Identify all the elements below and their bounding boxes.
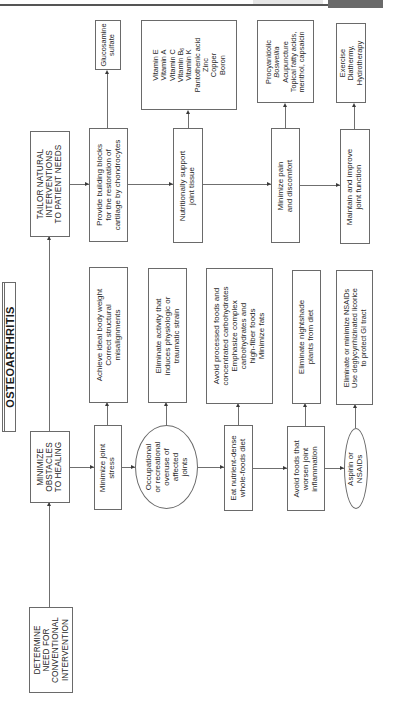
header-page-tab [328,0,383,8]
goal-to-intervention-connector [188,114,189,128]
obstacle-line: NSAIDs [356,452,365,486]
arrow-up [105,70,109,74]
obstacle-line: whole-foods diet [239,435,248,500]
determine-line: CONVENTIONAL [51,617,60,683]
arrow-up [352,103,356,107]
obstacle-line: joints [180,441,189,492]
goal-line: cartilage by chondrocytes [113,140,122,231]
diagram-title: OSTEOARTHRITIS [4,306,16,407]
obstacle-to-action-connector [166,406,167,425]
determine-node: DETERMINE NEED FOR CONVENTIONAL INTERVEN… [29,607,73,693]
tailor-line: TAILOR NATURAL [36,145,45,224]
obstacle-whole-foods-diet: Eat nutrient-dense whole-foods diet [224,425,253,511]
obstacle-overuse-ellipse: Occupational or recreational overuse of … [135,425,198,509]
action-eliminate-nightshade: Eliminate nightshade plants from diet [292,270,321,404]
goal-line: and discomfort [286,159,295,211]
spine-connector-lower [49,503,50,607]
intervention-line: Hydrotherapy [355,41,363,85]
tailor-line: TO PATIENT NEEDS [55,145,64,224]
goal-building-blocks: Provide building blocks for the restorat… [89,128,128,242]
obstacle-line: stress [108,443,117,491]
action-line: high-fiber foods [248,286,257,385]
tailor-chain-connector [127,184,173,185]
obstacle-to-action-connector [355,408,356,428]
action-line: plants from diet [307,300,316,374]
intervention-line: Boron [218,38,226,93]
action-minimize-nsaids: Eliminate or minimize NSAIDs Use deglycy… [336,270,373,405]
intervention-line: sulfate [108,23,116,66]
action-line: traumatic strain [172,296,181,375]
diagram-title-box: OSTEOARTHRITIS [2,282,16,432]
goal-to-intervention-connector [354,107,355,129]
obstacle-to-action-connector [107,406,108,425]
action-line: Minimize fats [257,286,266,385]
intervention-line: menthol, capsaicin [298,31,306,92]
goal-line: joint tissue [188,150,197,221]
determine-line: NEED FOR [42,617,51,683]
action-eliminate-strain: Eliminate activity that induces physiolo… [148,268,187,403]
action-line: carbohydrates and [240,286,249,385]
intervention-line: Boswellia [273,31,281,92]
action-diet-changes: Avoid processed foods and concentrated c… [206,268,273,404]
minimize-line: OBSTACLES [45,442,54,492]
determine-line: DETERMINE [33,617,42,683]
tailor-line: INTERVENTIONS [45,145,54,224]
obstacle-nsaids-ellipse: Aspirin or NSAIDs [344,428,368,509]
action-line: to protect GI tract [359,288,367,388]
tailor-node: TAILOR NATURAL INTERVENTIONS TO PATIENT … [30,131,70,237]
obstacle-to-action-connector [305,407,306,426]
obstacle-joint-stress: Minimize joint stress [94,425,122,510]
tailor-chain-connector [299,185,340,186]
goal-line: joint function [355,148,364,224]
intervention-glucosamine: Glucosamine sulfate [95,20,121,70]
intervention-physical-therapy: Exercise Diathermy, Hydrotherapy [336,23,366,103]
action-line: misalignments [113,289,122,382]
obstacle-inflammatory-foods: Avoid foods that worsen joint inflammati… [287,426,325,511]
minimize-line: MINIMIZE [36,442,45,492]
determine-line: INTERVENTION [60,617,69,683]
header-rule [0,4,328,6]
goal-to-intervention-connector [285,107,286,128]
minimize-obstacles-node: MINIMIZE OBSTACLES TO HEALING [30,431,70,503]
obstacle-to-action-connector [238,407,239,425]
obstacle-line: affected [171,441,180,492]
arrow-up [283,103,287,107]
obstacle-chain-connector [252,468,287,469]
goal-joint-function: Maintain and improve joint function [340,129,370,244]
obstacle-line: inflammation [310,440,319,497]
intervention-vitamins-minerals: Vitamin E Vitamin A Vitamin C Vitamin B6… [141,20,237,110]
minimize-line: TO HEALING [55,442,64,492]
goal-minimize-pain: Minimize pain and discomfort [271,128,300,243]
tailor-chain-connector [203,184,271,185]
goal-nutritional-support: Nutritionally support joint tissue [173,128,203,243]
spine-connector-upper [49,237,50,431]
action-line: Use deglycyrrhizinated licorice [350,288,358,388]
arrow-up [186,110,190,114]
action-body-weight: Achieve ideal body weight Correct struct… [89,267,128,403]
intervention-pain-relief: Procyanidolic Boswellia Acupuncture Topi… [257,20,314,103]
goal-to-intervention-connector [107,74,108,128]
